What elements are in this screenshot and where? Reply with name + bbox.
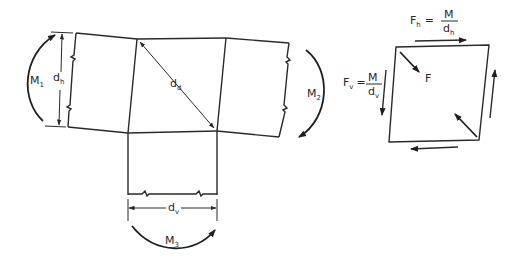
dh-label: dh — [53, 71, 64, 86]
fh-equation: Fh= M dh — [410, 8, 458, 37]
left-beam — [67, 33, 137, 133]
left-break-line — [67, 33, 76, 127]
m2-label: M2 — [307, 87, 321, 102]
fv-equation: Fv= M dv — [343, 71, 382, 100]
svg-text:dv: dv — [368, 85, 379, 100]
m1-label: M1 — [30, 74, 44, 89]
svg-text:M: M — [368, 71, 378, 84]
fv-right-arrow — [490, 70, 495, 118]
right-beam — [217, 38, 290, 137]
fh-top-arrow — [415, 40, 466, 41]
fh-bottom-arrow — [411, 147, 458, 149]
svg-text:M: M — [444, 8, 454, 21]
svg-text:Fv=: Fv= — [343, 76, 366, 91]
bottom-break-line — [128, 191, 217, 196]
dd-label: dd — [170, 77, 181, 92]
svg-text:dh: dh — [443, 22, 454, 37]
joint-diagram: M1 dh dd M2 dv M3 F Fh= M dh Fv= M dv — [0, 0, 517, 262]
f-diagonal-arrow-top — [400, 52, 419, 72]
f-label: F — [425, 72, 431, 85]
dv-label: dv — [168, 201, 179, 216]
right-break-line — [279, 43, 290, 137]
fv-left-arrow — [382, 70, 386, 115]
f-diagonal-arrow-bottom — [455, 114, 477, 137]
m3-label: M3 — [165, 234, 179, 249]
shear-panel — [382, 40, 495, 149]
svg-text:Fh=: Fh= — [410, 14, 434, 29]
